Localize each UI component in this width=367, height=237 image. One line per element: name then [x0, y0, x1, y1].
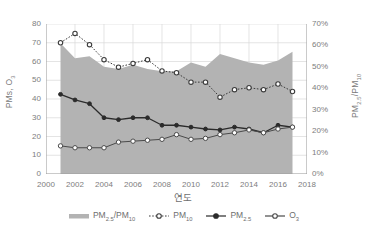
data-point: [232, 131, 236, 135]
y-tick-label-right: 0%: [312, 169, 342, 178]
plot-area: [46, 24, 307, 174]
legend-marker-solid-open-marker: [264, 211, 286, 221]
y-tick-label-left: 10: [15, 150, 41, 159]
data-point: [88, 102, 92, 106]
data-point: [59, 92, 63, 96]
y-tick-label-left: 50: [15, 75, 41, 84]
chart-legend: PM2.5/PM10PM10PM2.5O3: [0, 210, 367, 222]
data-point: [73, 98, 77, 102]
data-point: [261, 131, 265, 135]
x-tick-label: 2018: [290, 180, 324, 189]
y-tick-label-left: 20: [15, 132, 41, 141]
legend-marker-dotted-open-marker: [148, 211, 170, 221]
data-point: [131, 139, 135, 143]
data-point: [247, 128, 251, 132]
data-point: [116, 65, 120, 69]
data-point: [218, 95, 222, 99]
data-point: [146, 116, 150, 120]
y-tick-label-right: 20%: [312, 126, 342, 135]
data-point: [117, 118, 121, 122]
y-tick-label-left: 30: [15, 113, 41, 122]
data-point: [131, 116, 135, 120]
data-point: [73, 31, 77, 35]
data-point: [160, 69, 164, 73]
data-point: [218, 132, 222, 136]
x-axis-title: 연도: [0, 190, 367, 204]
data-point: [174, 132, 178, 136]
y-tick-label-left: 70: [15, 38, 41, 47]
data-point: [73, 146, 77, 150]
data-point: [175, 123, 179, 127]
y-tick-label-right: 40%: [312, 83, 342, 92]
data-point: [189, 137, 193, 141]
plot-svg: [46, 24, 307, 174]
data-point: [87, 146, 91, 150]
legend-item[interactable]: PM2.5/PM10: [68, 210, 135, 222]
data-point: [102, 116, 106, 120]
data-point: [203, 136, 207, 140]
data-point: [145, 57, 149, 61]
data-point: [131, 61, 135, 65]
y-tick-label-left: 0: [15, 169, 41, 178]
data-point: [87, 42, 91, 46]
data-point: [116, 140, 120, 144]
data-point: [290, 89, 294, 93]
data-point: [204, 127, 208, 131]
data-point: [276, 82, 280, 86]
legend-item[interactable]: PM10: [148, 210, 192, 222]
data-point: [232, 87, 236, 91]
data-point: [247, 86, 251, 90]
data-point: [189, 80, 193, 84]
data-point: [261, 87, 265, 91]
data-point: [218, 128, 222, 132]
y-tick-label-left: 60: [15, 57, 41, 66]
y-tick-label-right: 70%: [312, 19, 342, 28]
data-point: [174, 71, 178, 75]
legend-label: O3: [289, 210, 299, 222]
y-tick-label-left: 40: [15, 94, 41, 103]
data-point: [160, 123, 164, 127]
y-tick-label-right: 50%: [312, 62, 342, 71]
chart-container: PMs, O3 PM2.5/PM10 01020304050607080 0%1…: [0, 0, 367, 237]
y-axis-right-title: PM2.5/PM10: [350, 58, 362, 134]
data-point: [276, 127, 280, 131]
legend-item[interactable]: PM2.5: [205, 210, 251, 222]
data-point: [58, 41, 62, 45]
data-point: [160, 137, 164, 141]
legend-label: PM10: [173, 210, 192, 222]
y-tick-label-right: 60%: [312, 40, 342, 49]
legend-marker-area-swatch: [68, 211, 90, 221]
legend-label: PM2.5: [230, 210, 251, 222]
data-point: [189, 125, 193, 129]
data-point: [58, 144, 62, 148]
data-point: [102, 57, 106, 61]
legend-marker-solid-filled-marker: [205, 211, 227, 221]
data-point: [102, 146, 106, 150]
data-point: [233, 125, 237, 129]
data-point: [203, 80, 207, 84]
legend-label: PM2.5/PM10: [93, 210, 135, 222]
data-point: [290, 125, 294, 129]
y-tick-label-right: 10%: [312, 148, 342, 157]
data-point: [145, 138, 149, 142]
y-tick-label-right: 30%: [312, 105, 342, 114]
y-tick-label-left: 80: [15, 19, 41, 28]
legend-item[interactable]: O3: [264, 210, 299, 222]
